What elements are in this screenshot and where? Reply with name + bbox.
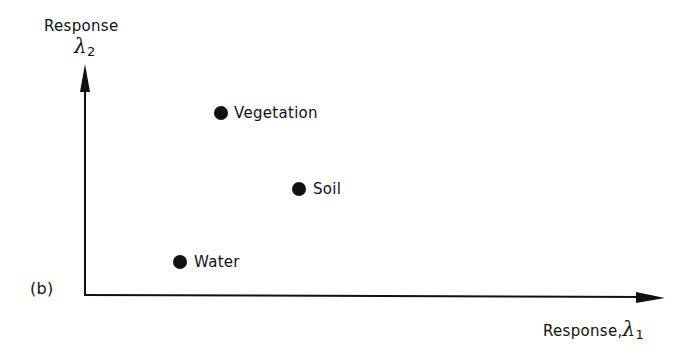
panel-label: (b) bbox=[30, 279, 54, 298]
x-axis bbox=[84, 295, 645, 297]
y-axis-symbol: λ2 bbox=[74, 34, 96, 59]
y-axis-title: Response bbox=[44, 17, 118, 35]
x-axis-arrow-icon bbox=[636, 292, 665, 303]
label-water: Water bbox=[194, 253, 240, 271]
x-axis-title: Response,λ1 bbox=[543, 317, 644, 342]
point-soil bbox=[292, 182, 306, 196]
point-vegetation bbox=[214, 106, 228, 120]
label-vegetation: Vegetation bbox=[234, 104, 318, 122]
label-soil: Soil bbox=[313, 180, 341, 198]
point-water bbox=[173, 255, 187, 269]
y-axis-arrow-icon bbox=[80, 64, 90, 92]
chart-canvas bbox=[0, 0, 700, 356]
